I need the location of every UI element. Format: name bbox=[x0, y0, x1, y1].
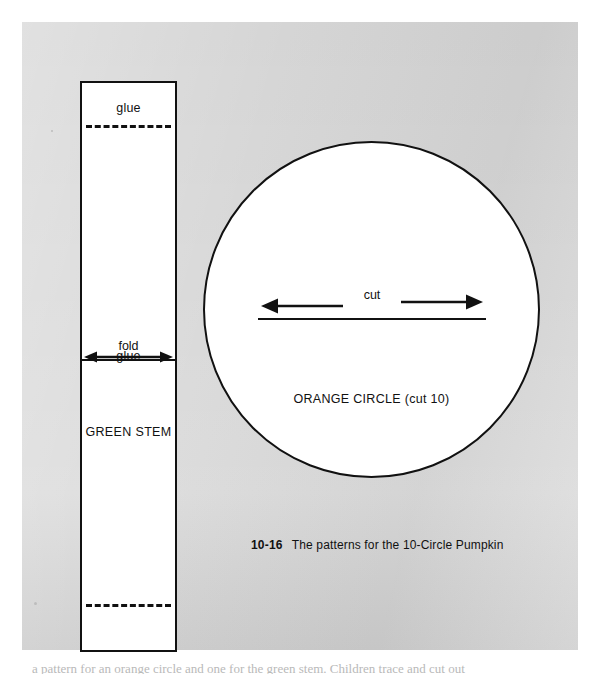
scan-speck bbox=[51, 130, 53, 132]
figure-caption: 10-16The patterns for the 10-Circle Pump… bbox=[251, 538, 504, 552]
green-stem-label: GREEN STEM bbox=[72, 425, 185, 439]
cut-label: cut bbox=[258, 288, 486, 302]
scan-speck bbox=[34, 602, 37, 605]
glue-label-bottom: glue bbox=[82, 349, 175, 363]
dashed-fold-line-bottom bbox=[86, 604, 171, 607]
figure-caption-text: The patterns for the 10-Circle Pumpkin bbox=[292, 538, 504, 552]
glue-label-top: glue bbox=[82, 101, 175, 115]
cropped-body-text: a pattern for an orange circle and one f… bbox=[32, 661, 512, 674]
cut-direction-arrows: cut bbox=[258, 288, 486, 314]
orange-circle-label: ORANGE CIRCLE (cut 10) bbox=[203, 392, 540, 406]
cut-line bbox=[258, 318, 486, 320]
green-stem-pattern-strip: glue fold GREEN STEM glue bbox=[80, 81, 177, 652]
figure-number: 10-16 bbox=[251, 538, 283, 552]
dashed-fold-line-top bbox=[86, 125, 171, 128]
